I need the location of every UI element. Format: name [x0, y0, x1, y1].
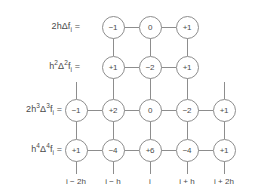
axis-label-c4: i + h — [179, 177, 194, 187]
node-r4-c2: −4 — [102, 139, 125, 162]
edge-horizontal-r4-c2-c3 — [124, 150, 139, 151]
node-r1-c3: 0 — [139, 16, 162, 39]
axis-label-c5: i + 2h — [214, 177, 234, 187]
edge-vertical-c3-r2-r3 — [150, 78, 151, 99]
edge-vertical-c2-r3-r4 — [113, 121, 114, 139]
node-r4-c4: −4 — [176, 139, 199, 162]
edge-vertical-c1-r3-r4 — [76, 121, 77, 139]
node-r3-c3: 0 — [139, 99, 162, 122]
node-r3-c4: −2 — [176, 99, 199, 122]
edge-vertical-c4-r1-r2 — [187, 38, 188, 56]
node-r2-c4: +1 — [176, 56, 199, 79]
edge-horizontal-r2-c3-c4 — [161, 67, 176, 68]
node-r3-c1: −1 — [65, 99, 88, 122]
row-4-label: h4Δ4fi = — [0, 144, 62, 155]
node-r1-c4: +1 — [176, 16, 199, 39]
edge-horizontal-r4-c3-c4 — [161, 150, 176, 151]
axis-label-c2: i − h — [105, 177, 120, 187]
node-r3-c2: +2 — [102, 99, 125, 122]
edge-vertical-c5-r3-r4 — [224, 121, 225, 139]
node-r2-c2: +1 — [102, 56, 125, 79]
edge-vertical-c2-r1-r2 — [113, 38, 114, 56]
edge-stub-bottom-c2 — [113, 161, 114, 174]
row-1-label: 2hΔfi = — [6, 21, 80, 32]
edge-horizontal-r3-c3-c4 — [161, 110, 176, 111]
edge-horizontal-r2-c2-c3 — [124, 67, 139, 68]
edge-stub-bottom-c4 — [187, 161, 188, 174]
axis-label-c3: i — [149, 177, 151, 187]
edge-stub-bottom-c5 — [224, 161, 225, 174]
edge-horizontal-r4-c1-c2 — [87, 150, 102, 151]
edge-horizontal-r3-c2-c3 — [124, 110, 139, 111]
edge-horizontal-r1-c3-c4 — [161, 27, 176, 28]
edge-horizontal-r1-c2-c3 — [124, 27, 139, 28]
stencil-diagram: 2hΔfi = h2Δ2fi = 2h3Δ3fi = h4Δ4fi = −1 0… — [0, 0, 257, 194]
edge-stub-top-c5-r3 — [224, 82, 225, 99]
row-2-label: h2Δ2fi = — [6, 61, 80, 72]
node-r4-c3: +6 — [139, 139, 162, 162]
edge-stub-bottom-c3 — [150, 161, 151, 174]
edge-stub-bottom-c1 — [76, 161, 77, 174]
edge-vertical-c4-r2-r3 — [187, 78, 188, 99]
edge-horizontal-r3-c4-c5 — [198, 110, 213, 111]
edge-vertical-c2-r2-r3 — [113, 78, 114, 99]
edge-horizontal-r3-c1-c2 — [87, 110, 102, 111]
node-r4-c1: +1 — [65, 139, 88, 162]
edge-horizontal-r4-c4-c5 — [198, 150, 213, 151]
edge-vertical-c3-r3-r4 — [150, 121, 151, 139]
node-r1-c2: −1 — [102, 16, 125, 39]
node-r4-c5: +1 — [213, 139, 236, 162]
axis-label-c1: i − 2h — [66, 177, 86, 187]
edge-vertical-c4-r3-r4 — [187, 121, 188, 139]
edge-vertical-c3-r1-r2 — [150, 38, 151, 56]
edge-stub-top-c1-r3 — [76, 82, 77, 99]
node-r3-c5: +1 — [213, 99, 236, 122]
row-3-label: 2h3Δ3fi = — [0, 104, 62, 115]
node-r2-c3: −2 — [139, 56, 162, 79]
